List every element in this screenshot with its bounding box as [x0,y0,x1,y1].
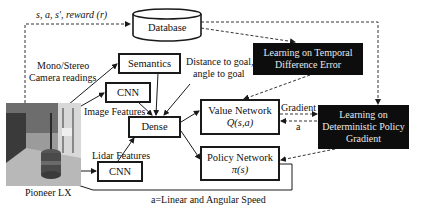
semantics-label: Semantics [128,58,171,70]
cnn-lidar-label: CNN [109,166,131,178]
gradient-label: Gradient [281,102,316,114]
dpg-learning-line3: Gradient [346,133,381,145]
value-network-sublabel: Q(s,a) [227,117,254,129]
database-label: Database [148,22,186,34]
camera-label-line2: Camera readings [29,72,96,84]
value-network-node: Value Network Q(s,a) [200,99,280,135]
action-label: a [296,121,300,133]
dense-node: Dense [128,116,181,138]
cnn-lidar-node: CNN [97,161,143,182]
goal-label-line1: Distance to goal, [186,56,253,68]
cnn-camera-label: CNN [117,87,139,99]
camera-label-line1: Mono/Stereo [37,60,89,72]
robot-image-icon [6,103,81,186]
action-definition-label: a=Linear and Angular Speed [151,194,266,206]
policy-network-sublabel: π(s) [232,164,248,176]
robot-photo [6,103,81,186]
value-network-label: Value Network [208,105,271,117]
dpg-learning-node: Learning on Deterministic Policy Gradien… [318,105,409,149]
dense-label: Dense [141,121,167,133]
goal-label-line2: angle to goal [193,68,245,80]
policy-network-node: Policy Network π(s) [200,146,280,181]
td-learning-node: Learning on Temporal Difference Error [253,43,363,75]
transition-label: s, a, s', reward (r) [36,9,107,21]
cnn-camera-node: CNN [105,82,151,103]
dpg-learning-line2: Deterministic Policy [322,121,405,133]
td-learning-line1: Learning on Temporal [263,47,352,59]
td-learning-line2: Difference Error [275,59,341,71]
policy-network-label: Policy Network [207,152,273,164]
semantics-node: Semantics [118,53,181,74]
robot-label: Pioneer LX [25,187,71,199]
dpg-learning-line1: Learning on [339,109,388,121]
